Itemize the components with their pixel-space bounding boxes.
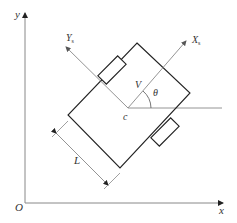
velocity-label: V [135,80,141,90]
robot-y-axis-subscript: s [72,38,74,44]
y-axis-label: y [15,9,20,20]
center-label: c [123,112,127,122]
wheel-base-dimension [56,133,108,185]
robot-body [68,43,190,168]
origin-label: O [15,202,23,213]
angle-label: θ [153,88,158,98]
left-wheel [98,56,126,84]
angle-arc [143,91,151,108]
robot-kinematics-diagram [0,0,237,223]
right-wheel [151,118,179,146]
robot-x-axis-label: Xs [192,35,200,46]
robot-x-axis-subscript: s [198,40,200,46]
wheel-base-label: L [74,155,80,166]
robot-y-axis-label: Ys [66,33,74,44]
x-axis-label: x [219,205,224,216]
dimension-extension-bottom [104,173,120,189]
dimension-extension-left [52,121,68,137]
